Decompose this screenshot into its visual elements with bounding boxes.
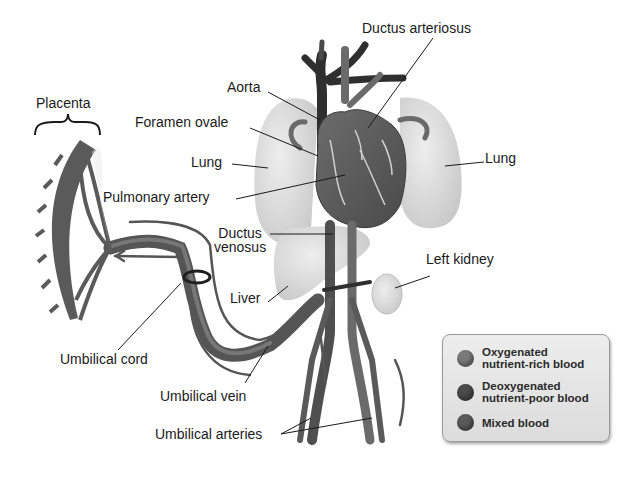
legend-text-oxygenated: Oxygenated nutrient-rich blood [482,346,584,370]
label-liver: Liver [230,291,260,306]
label-foramen-ovale: Foramen ovale [135,115,228,130]
label-pulmonary-artery: Pulmonary artery [103,190,210,205]
legend-item-mixed: Mixed blood [457,414,549,431]
lung-left-shape [254,98,318,246]
legend-deoxygenated-line2: nutrient-poor blood [482,392,589,404]
label-umbilical-vein: Umbilical vein [160,389,246,404]
label-aorta: Aorta [227,80,260,95]
legend-mixed-label: Mixed blood [482,417,549,429]
legend-deoxygenated-line1: Deoxygenated [482,380,561,392]
label-ductus-arteriosus: Ductus arteriosus [362,21,471,36]
placenta-shape [36,140,110,320]
label-placenta: Placenta [36,96,90,111]
label-lung-right: Lung [485,151,516,166]
placenta-bracket [35,114,100,135]
legend-oxygenated-line1: Oxygenated [482,346,548,358]
legend-item-oxygenated: Oxygenated nutrient-rich blood [457,346,584,370]
label-ductus-venosus-line2: venosus [214,239,266,255]
oxygenated-swatch-icon [457,350,474,367]
legend-item-deoxygenated: Deoxygenated nutrient-poor blood [457,380,589,404]
label-left-kidney: Left kidney [426,252,494,267]
label-umbilical-cord: Umbilical cord [60,352,148,367]
legend-box: Oxygenated nutrient-rich blood Deoxygena… [442,334,610,442]
label-lung-left: Lung [191,155,222,170]
heart-shape [316,110,406,228]
deoxygenated-swatch-icon [457,384,474,401]
legend-oxygenated-line2: nutrient-rich blood [482,358,584,370]
legend-text-deoxygenated: Deoxygenated nutrient-poor blood [482,380,589,404]
label-ductus-venosus: Ductus venosus [214,226,266,254]
mixed-swatch-icon [457,414,474,431]
label-umbilical-arteries: Umbilical arteries [155,427,262,442]
left-kidney-shape [372,274,402,314]
